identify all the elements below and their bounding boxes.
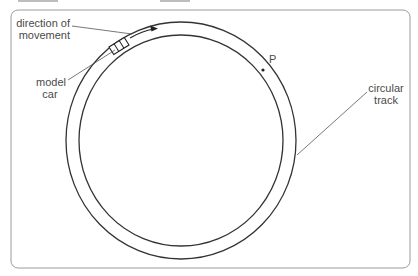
- cropped-caption-fragment: [18, 0, 190, 2]
- leader-line-direction: [72, 26, 132, 34]
- label-model-car: model car: [28, 76, 66, 100]
- point-p-marker: [261, 68, 264, 71]
- track-outer-edge: [66, 22, 296, 259]
- label-car-line1: model: [28, 76, 66, 88]
- label-circular-track: circular track: [366, 82, 406, 106]
- circular-track-diagram: [0, 0, 418, 276]
- label-direction-line2: movement: [14, 29, 70, 41]
- track-inner-edge: [79, 35, 283, 246]
- label-point-p: P: [269, 53, 276, 65]
- label-track-line1: circular: [366, 82, 406, 94]
- label-direction-line1: direction of: [14, 17, 70, 29]
- leader-line-car: [68, 50, 115, 80]
- label-direction-of-movement: direction of movement: [14, 17, 70, 41]
- diagram-frame: [11, 10, 410, 268]
- label-track-line2: track: [366, 94, 406, 106]
- label-car-line2: car: [28, 88, 66, 100]
- leader-line-track: [297, 92, 367, 155]
